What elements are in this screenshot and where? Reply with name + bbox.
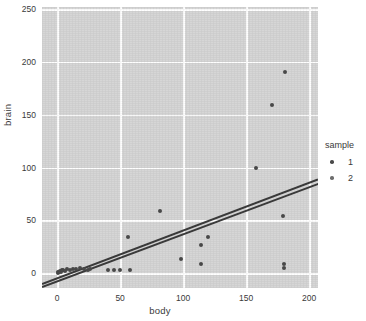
data-point <box>283 70 287 74</box>
x-tick-label: 150 <box>231 293 261 303</box>
data-point <box>106 268 110 272</box>
data-point <box>82 267 86 271</box>
legend-label: 1 <box>348 157 353 167</box>
legend-dot-icon <box>330 176 334 180</box>
gridline-horizontal <box>42 168 318 169</box>
gridline-horizontal <box>42 273 318 274</box>
data-point <box>206 235 210 239</box>
x-tick-label: 50 <box>105 293 135 303</box>
gridline-horizontal <box>42 220 318 221</box>
legend-key-swatch <box>325 155 339 169</box>
x-axis-title: body <box>0 305 320 316</box>
legend-entry[interactable]: 2 <box>325 170 354 186</box>
data-point <box>199 262 203 266</box>
data-point <box>254 166 258 170</box>
legend-label: 2 <box>348 173 353 183</box>
y-tick-label: 200 <box>8 57 36 67</box>
legend-entries: 12 <box>325 154 354 186</box>
data-point <box>118 268 122 272</box>
legend: sample 12 <box>325 140 354 186</box>
data-point <box>179 257 183 261</box>
data-point <box>281 214 285 218</box>
data-point <box>199 243 203 247</box>
gridline-vertical <box>183 7 184 288</box>
data-point <box>88 267 92 271</box>
gridline-vertical <box>120 7 121 288</box>
y-tick-label: 250 <box>8 4 36 14</box>
y-tick-label: 150 <box>8 110 36 120</box>
x-tick-label: 0 <box>42 293 72 303</box>
x-tick-label: 200 <box>294 293 324 303</box>
legend-title: sample <box>325 140 354 150</box>
data-point <box>270 103 274 107</box>
gridline-vertical <box>309 7 310 288</box>
data-point <box>128 268 132 272</box>
legend-dot-icon <box>330 160 334 164</box>
panel-texture <box>42 7 318 288</box>
gridline-horizontal <box>42 62 318 63</box>
legend-entry[interactable]: 1 <box>325 154 354 170</box>
y-tick-label: 50 <box>8 215 36 225</box>
data-point <box>112 268 116 272</box>
data-point <box>158 209 162 213</box>
gridline-horizontal <box>42 115 318 116</box>
gridline-vertical <box>246 7 247 288</box>
plot-panel <box>42 7 318 288</box>
y-tick-label: 0 <box>8 268 36 278</box>
data-point <box>126 235 130 239</box>
data-point <box>282 266 286 270</box>
gridline-vertical <box>57 7 58 288</box>
scatter-plot-figure: brain body 050100150200250 050100150200 … <box>0 0 366 321</box>
legend-key-swatch <box>325 171 339 185</box>
gridline-horizontal <box>42 9 318 10</box>
x-tick-label: 100 <box>168 293 198 303</box>
y-tick-label: 100 <box>8 163 36 173</box>
